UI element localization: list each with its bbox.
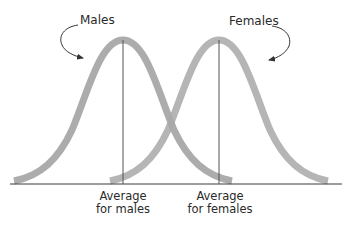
males-label: Males [80, 14, 115, 27]
distribution-diagram [0, 0, 350, 226]
females-average-caption: Average for females [184, 190, 256, 216]
males-arrow-icon [61, 25, 83, 58]
females-average-line2: for females [184, 203, 256, 216]
males-average-caption: Average for males [92, 190, 154, 216]
males-average-line2: for males [92, 203, 154, 216]
females-arrow-icon [269, 26, 290, 60]
females-label: Females [229, 15, 279, 28]
